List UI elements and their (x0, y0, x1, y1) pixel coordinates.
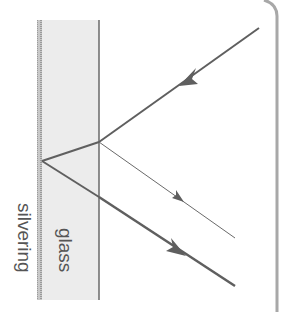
glass-label: glass (56, 228, 75, 272)
main-reflected-ray (99, 197, 235, 286)
front-reflection-arrow-icon (172, 190, 184, 202)
main-reflection-arrow-icon (166, 238, 186, 256)
mirror-reflection-diagram (0, 0, 296, 312)
incident-arrow-icon (179, 68, 198, 86)
silvering-layer (37, 20, 42, 300)
frame-border (264, 0, 277, 312)
front-surface-reflection-ray (99, 142, 235, 238)
incident-ray (99, 28, 259, 142)
silvering-label: silvering (15, 203, 34, 273)
